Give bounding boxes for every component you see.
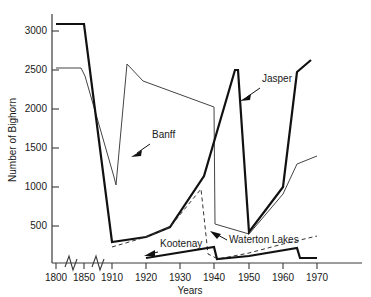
waterton-arrow-head [210, 231, 221, 239]
y-tick-label-3000: 3000 [25, 25, 48, 36]
x-axis-break-2 [92, 256, 104, 270]
series-label-banff: Banff [152, 129, 175, 140]
x-tick-label-1970: 1970 [306, 272, 329, 283]
x-tick-label-1960: 1960 [272, 272, 295, 283]
bighorn-population-chart: 3000 2500 2000 1500 1000 500 1800 1850 1… [0, 0, 371, 297]
banff-leader-line [137, 144, 150, 153]
y-tick-label-1500: 1500 [25, 142, 48, 153]
x-tick-label-1920: 1920 [135, 272, 158, 283]
annotation-banff: Banff [131, 129, 175, 157]
y-tick-label-500: 500 [30, 220, 47, 231]
series-label-waterton-lakes: Waterton Lakes [229, 234, 299, 245]
chart-canvas: 3000 2500 2000 1500 1000 500 1800 1850 1… [0, 0, 371, 297]
annotation-jasper: Jasper [240, 73, 293, 101]
x-axis-break-1 [65, 256, 77, 270]
series-label-jasper: Jasper [262, 73, 293, 84]
series-line-jasper [56, 24, 311, 242]
y-tick-marks [52, 31, 59, 226]
series-label-kootenay: Kootenay [160, 238, 202, 249]
y-tick-labels: 3000 2500 2000 1500 1000 500 [25, 25, 48, 231]
x-axis-title: Years [177, 285, 202, 296]
banff-arrow-head [131, 150, 142, 157]
x-tick-label-1910: 1910 [101, 272, 124, 283]
y-axis-title: Number of Bighorn [7, 98, 18, 182]
x-tick-labels: 1800 1850 1910 1920 1930 1940 1950 1960 … [45, 272, 329, 283]
series-line-banff [56, 64, 317, 234]
x-tick-label-1930: 1930 [169, 272, 192, 283]
jasper-arrow-head [240, 94, 251, 101]
y-tick-label-2000: 2000 [25, 103, 48, 114]
annotation-waterton-lakes: Waterton Lakes [210, 231, 299, 245]
y-tick-label-1000: 1000 [25, 181, 48, 192]
y-tick-label-2500: 2500 [25, 64, 48, 75]
x-tick-label-1940: 1940 [203, 272, 226, 283]
kootenay-arrow-head [144, 250, 155, 256]
x-tick-label-1800: 1800 [45, 272, 68, 283]
x-tick-label-1950: 1950 [238, 272, 261, 283]
x-tick-label-1850: 1850 [73, 272, 96, 283]
